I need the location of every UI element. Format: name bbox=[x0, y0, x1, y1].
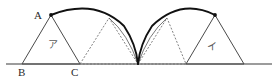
region-label-a: ア bbox=[48, 40, 58, 50]
region-label-i: イ bbox=[207, 42, 217, 52]
vertex-dot-g bbox=[213, 13, 217, 17]
geometry-figure: A B C ア イ bbox=[0, 0, 278, 81]
triangle-roll-dashed-2 bbox=[138, 18, 186, 64]
triangle-end-solid bbox=[186, 15, 244, 64]
vertex-label-b: B bbox=[18, 67, 25, 78]
triangle-roll-dashed-1 bbox=[80, 18, 138, 64]
vertex-label-a: A bbox=[34, 10, 42, 21]
vertex-dot-a bbox=[49, 13, 53, 17]
arc-right-main-thick bbox=[138, 9, 215, 64]
vertex-label-c: C bbox=[71, 67, 78, 78]
